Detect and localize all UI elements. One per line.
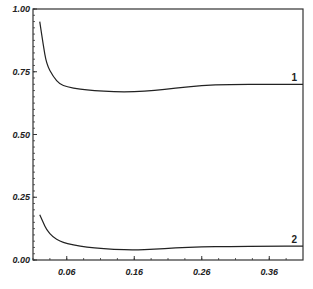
- y-tick-label: 0.00: [12, 255, 30, 265]
- x-tick-label: 0.16: [125, 267, 144, 277]
- series-2-line: [40, 215, 303, 250]
- y-tick-label: 0.50: [12, 130, 30, 140]
- curve-label: 2: [291, 234, 297, 245]
- series-1-line: [40, 22, 303, 92]
- y-tick-label: 0.75: [12, 67, 31, 77]
- x-tick-label: 0.36: [260, 267, 279, 277]
- y-tick-label: 1.00: [12, 4, 30, 14]
- y-tick-label: 0.25: [12, 192, 31, 202]
- curve-label: 1: [291, 72, 297, 83]
- line-chart: 0.000.250.500.751.000.060.160.260.3612: [0, 0, 313, 289]
- plot-frame: [33, 9, 303, 260]
- x-tick-label: 0.26: [193, 267, 212, 277]
- x-tick-label: 0.06: [58, 267, 77, 277]
